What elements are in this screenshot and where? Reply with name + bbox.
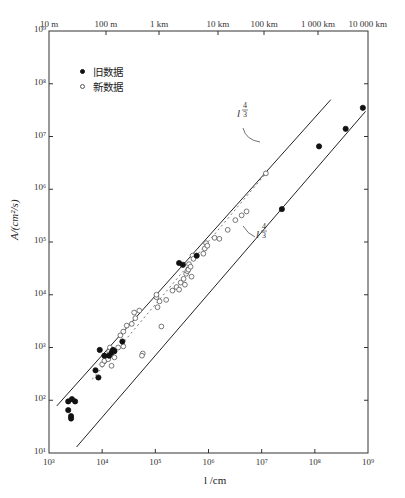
new-data-point — [121, 329, 126, 334]
old-data-point — [96, 375, 101, 380]
y-tick-label: 10⁷ — [34, 130, 46, 140]
new-data-point — [137, 308, 142, 313]
legend-label-old: 旧数据 — [93, 64, 123, 79]
old-data-point — [343, 126, 348, 131]
y-tick-label: 10⁴ — [34, 288, 46, 298]
old-data-point — [93, 368, 98, 373]
legend-item-new: 新数据 — [80, 79, 123, 94]
new-data-point — [205, 243, 210, 248]
y-tick-label: 10³ — [34, 341, 46, 351]
exponent-label: l43 — [256, 222, 267, 240]
new-data-point — [154, 292, 159, 297]
new-data-point — [212, 235, 217, 240]
x-tick-label: 10⁵ — [149, 457, 161, 467]
old-data-point — [180, 262, 185, 267]
y-tick-label: 10⁸ — [34, 77, 46, 87]
top-axis-tick-label: 10 km — [207, 19, 230, 29]
x-tick-label: 10⁹ — [362, 457, 374, 467]
new-data-point — [217, 236, 222, 241]
x-tick-label: 10⁶ — [203, 457, 215, 467]
new-data-point — [159, 324, 164, 329]
new-data-point — [244, 209, 249, 214]
new-data-point — [239, 213, 244, 218]
y-tick-label: 10¹ — [34, 446, 46, 456]
new-data-point — [189, 274, 194, 279]
new-data-point — [177, 287, 182, 292]
old-data-point — [279, 207, 284, 212]
new-data-point — [201, 251, 206, 256]
top-axis-tick-label: 10 000 km — [349, 19, 388, 29]
new-data-point — [181, 276, 186, 281]
y-tick-label: 10⁶ — [34, 182, 46, 192]
old-data-point — [112, 349, 117, 354]
svg-text:3: 3 — [243, 110, 247, 119]
old-data-points — [66, 105, 366, 421]
chart-canvas: l43l43 — [0, 0, 405, 498]
top-axis-tick-label: 100 m — [95, 19, 118, 29]
new-data-point — [183, 282, 188, 287]
reference-lines — [57, 100, 366, 447]
new-data-point — [140, 353, 145, 358]
legend-item-old: 旧数据 — [80, 64, 123, 79]
new-data-point — [155, 305, 160, 310]
new-data-point — [157, 299, 162, 304]
new-data-point — [164, 297, 169, 302]
new-data-point — [129, 322, 134, 327]
y-axis-label: A/(cm²/s) — [8, 199, 20, 240]
old-data-point — [360, 105, 365, 110]
x-tick-label: 10⁴ — [96, 457, 108, 467]
new-data-point — [188, 264, 193, 269]
top-axis-tick-label: 100 km — [251, 19, 278, 29]
old-data-point — [120, 339, 125, 344]
new-data-point — [170, 288, 175, 293]
new-data-point — [109, 363, 114, 368]
top-axis-tick-label: 1 km — [150, 19, 168, 29]
svg-text:3: 3 — [262, 231, 266, 240]
x-tick-label: 10⁸ — [309, 457, 321, 467]
x-tick-label: 10⁷ — [256, 457, 268, 467]
svg-text:l: l — [237, 107, 240, 119]
new-data-point — [124, 323, 129, 328]
new-data-point — [121, 344, 126, 349]
top-axis-tick-label: 1 000 km — [301, 19, 335, 29]
old-data-point — [316, 144, 321, 149]
y-tick-label: 10⁵ — [34, 235, 46, 245]
old-data-point — [73, 399, 78, 404]
new-data-points — [100, 171, 269, 368]
svg-text:4: 4 — [243, 101, 247, 110]
svg-text:4: 4 — [262, 222, 266, 231]
filled-circle-icon — [80, 69, 85, 74]
svg-text:l: l — [256, 228, 259, 240]
y-tick-label: 10² — [34, 393, 46, 403]
old-data-point — [68, 416, 73, 421]
new-data-point — [263, 171, 268, 176]
new-data-point — [132, 310, 137, 315]
old-data-point — [66, 408, 71, 413]
new-data-point — [225, 227, 230, 232]
x-tick-label: 10³ — [43, 457, 55, 467]
new-data-point — [133, 316, 138, 321]
new-data-point — [112, 355, 117, 360]
legend: 旧数据 新数据 — [80, 64, 123, 94]
line-annotations: l43l43 — [237, 101, 267, 240]
old-data-point — [97, 347, 102, 352]
new-data-point — [233, 218, 238, 223]
exponent-label: l43 — [237, 101, 248, 119]
old-data-point — [194, 253, 199, 258]
top-axis-tick-label: 10 m — [40, 19, 58, 29]
x-axis-label: l /cm — [204, 474, 226, 486]
open-circle-icon — [80, 84, 85, 89]
legend-label-new: 新数据 — [93, 79, 123, 94]
